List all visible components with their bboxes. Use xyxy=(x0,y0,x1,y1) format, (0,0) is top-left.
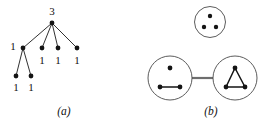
panel-b-cluster-graph: (b) xyxy=(148,7,257,119)
cluster-node-t1 xyxy=(208,14,212,18)
tree-edges xyxy=(16,23,77,76)
tree-edge xyxy=(23,23,52,48)
tree-node-g1 xyxy=(14,74,19,79)
tree-node-labels: 3111111 xyxy=(10,5,80,93)
tree-weight-label-c4: 1 xyxy=(74,54,80,66)
figure-container: 3111111 (a) (b) xyxy=(0,0,267,123)
tree-edge xyxy=(16,48,23,76)
cluster-node-r3 xyxy=(243,85,248,90)
cluster-node-r1 xyxy=(233,66,238,71)
cluster-edge-right-cluster xyxy=(235,68,245,87)
cluster-edge-right-cluster xyxy=(226,68,235,87)
cluster-circles xyxy=(148,7,257,101)
cluster-node-t2 xyxy=(202,25,206,29)
cluster-boundary-right-cluster xyxy=(213,56,257,100)
panel-a-caption: (a) xyxy=(57,105,71,118)
tree-weight-label-root: 3 xyxy=(49,5,55,17)
panel-b-caption: (b) xyxy=(204,105,218,118)
cluster-node-l2 xyxy=(158,85,163,90)
tree-weight-label-c1: 1 xyxy=(10,40,16,52)
panel-a-tree: 3111111 (a) xyxy=(10,5,80,118)
tree-node-g2 xyxy=(29,74,34,79)
tree-weight-label-g2: 1 xyxy=(28,81,34,93)
tree-node-c3 xyxy=(56,46,61,51)
cluster-node-t3 xyxy=(214,25,218,29)
tree-weight-label-c2: 1 xyxy=(39,54,45,66)
tree-edge xyxy=(52,23,58,48)
cluster-node-r2 xyxy=(224,85,229,90)
tree-node-c2 xyxy=(40,46,45,51)
tree-node-root xyxy=(50,21,55,26)
tree-nodes xyxy=(14,21,80,79)
tree-edge xyxy=(23,48,31,76)
tree-edge xyxy=(52,23,77,48)
tree-weight-label-g1: 1 xyxy=(13,81,19,93)
cluster-node-l1 xyxy=(168,66,173,71)
cluster-boundary-top-cluster xyxy=(195,7,226,38)
tree-node-c4 xyxy=(75,46,80,51)
figure-canvas: 3111111 (a) (b) xyxy=(0,0,267,123)
tree-node-c1 xyxy=(21,46,26,51)
tree-weight-label-c3: 1 xyxy=(55,54,61,66)
cluster-boundary-left-cluster xyxy=(148,56,192,100)
cluster-node-l3 xyxy=(178,85,183,90)
